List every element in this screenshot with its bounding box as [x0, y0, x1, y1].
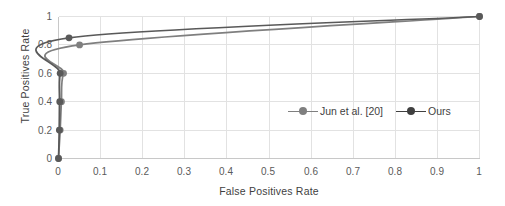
data-point-marker: [55, 155, 62, 162]
series-layer: [36, 13, 483, 162]
data-point-marker: [56, 127, 63, 134]
legend-marker-jun: [288, 105, 318, 117]
data-point-marker: [56, 98, 63, 105]
legend-item-ours[interactable]: Ours: [396, 105, 451, 117]
plot-area: [0, 0, 505, 206]
roc-chart: True Positives Rate False Positives Rate…: [0, 0, 505, 206]
data-point-marker: [76, 42, 83, 49]
series-ours: [36, 13, 483, 162]
data-point-marker: [476, 13, 483, 20]
series-jun: [45, 13, 483, 162]
data-point-marker: [66, 34, 73, 41]
legend-label-jun: Jun et al. [20]: [320, 105, 383, 117]
legend-label-ours: Ours: [428, 105, 451, 117]
legend-item-jun[interactable]: Jun et al. [20]: [288, 105, 383, 117]
series-line: [45, 17, 480, 159]
gridlines: [59, 17, 480, 159]
series-line: [36, 17, 480, 159]
data-point-marker: [57, 70, 64, 77]
legend-marker-ours: [396, 105, 426, 117]
